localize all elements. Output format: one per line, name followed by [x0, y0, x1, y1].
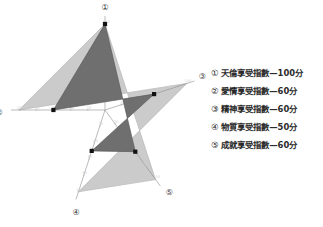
radar-tick-dot	[186, 83, 187, 84]
legend-item-label: 精神享受指數—60分	[221, 102, 297, 114]
radar-vertex-label: ①	[101, 3, 108, 12]
radar-tick-dot	[18, 109, 19, 110]
radar-tick-dot	[83, 175, 84, 176]
legend-item-label: 物質享受指數—50分	[221, 120, 297, 132]
radar-tick-dot	[155, 179, 156, 180]
legend-item: ④ 物質享受指數—50分	[211, 120, 321, 138]
radar-vertex-label: ②	[0, 108, 3, 117]
radar-data-point-marker	[152, 92, 156, 96]
radar-vertex-label: ③	[199, 72, 206, 81]
radar-tick-label: 100	[153, 175, 161, 179]
legend-item: ② 愛情享受指數—60分	[211, 84, 321, 102]
radar-tick-label: 40	[93, 139, 98, 143]
radar-vertex-label: ④	[72, 208, 79, 217]
radar-tick-label: 20	[114, 120, 119, 124]
radar-vertex-label: ⑤	[166, 188, 173, 197]
radar-data-point-marker	[51, 108, 55, 112]
radar-tick-dot	[87, 109, 88, 110]
radar-tick-label: 20	[98, 122, 103, 126]
radar-tick-label: 100	[76, 188, 84, 192]
radar-tick-dot	[170, 88, 171, 89]
radar-tick-dot	[78, 191, 79, 192]
radar-tick-label: 80	[144, 162, 149, 166]
radar-tick-dot	[88, 158, 89, 159]
legend-item-label: 天倫享受指數—100分	[221, 66, 303, 78]
radar-tick-dot	[36, 109, 37, 110]
radar-tick-label: 100	[17, 106, 25, 110]
legend-marker-icon: ⑤	[211, 140, 219, 150]
radar-chart-area: 2040608010020406080100204060801002040608…	[0, 0, 210, 227]
radar-tick-dot	[145, 165, 146, 166]
radar-chart-page: 2040608010020406080100204060801002040608…	[0, 0, 323, 227]
radar-tick-dot	[94, 142, 95, 143]
legend-item-label: 成就享受指數—60分	[221, 138, 297, 150]
radar-tick-dot	[99, 126, 100, 127]
radar-tick-label: 80	[169, 85, 174, 89]
legend-marker-icon: ③	[211, 104, 219, 114]
radar-legend: ① 天倫享受指數—100分 ② 愛情享受指數—60分 ③ 精神享受指數—60分 …	[211, 66, 321, 156]
radar-tick-label: 100	[184, 79, 192, 83]
radar-tick-dot	[121, 104, 122, 105]
radar-tick-label: 60	[88, 155, 93, 159]
radar-tick-label: 80	[35, 106, 40, 110]
legend-item: ⑤ 成就享受指數—60分	[211, 138, 321, 156]
legend-item: ③ 精神享受指數—60分	[211, 102, 321, 120]
radar-data-point-marker	[133, 150, 137, 154]
radar-chart-svg: 2040608010020406080100204060801002040608…	[0, 0, 210, 227]
radar-tick-dot	[114, 123, 115, 124]
radar-data-point-marker	[90, 149, 94, 153]
radar-tick-label: 80	[82, 171, 87, 175]
radar-data-point-marker	[103, 22, 107, 26]
legend-marker-icon: ①	[211, 68, 219, 78]
legend-item: ① 天倫享受指數—100分	[211, 66, 321, 84]
legend-marker-icon: ④	[211, 122, 219, 132]
legend-marker-icon: ②	[211, 86, 219, 96]
radar-tick-label: 20	[87, 106, 92, 110]
legend-item-label: 愛情享受指數—60分	[221, 84, 297, 96]
radar-tick-dot	[70, 109, 71, 110]
